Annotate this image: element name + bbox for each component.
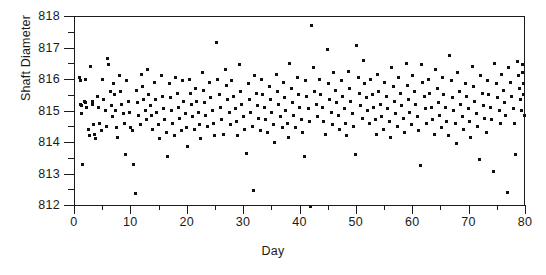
data-point	[101, 78, 104, 81]
data-point	[335, 101, 338, 104]
data-point	[85, 106, 88, 109]
y-tick-minor	[68, 95, 74, 96]
data-point	[131, 129, 134, 132]
data-point	[486, 79, 489, 82]
data-point	[154, 98, 157, 101]
x-tick	[187, 205, 188, 214]
data-point	[305, 95, 308, 98]
data-point	[290, 87, 293, 90]
data-point	[141, 85, 144, 88]
data-point	[393, 100, 396, 103]
data-point	[105, 125, 108, 128]
data-point	[123, 122, 126, 125]
y-tick	[64, 174, 74, 175]
data-point	[286, 122, 289, 125]
data-point	[416, 115, 419, 118]
data-point	[363, 82, 366, 85]
data-point	[88, 134, 91, 137]
data-point	[341, 95, 344, 98]
data-point	[427, 78, 430, 81]
data-point	[322, 120, 325, 123]
data-point	[437, 101, 440, 104]
x-tick-minor	[384, 205, 385, 210]
data-point	[385, 95, 388, 98]
x-tick	[356, 205, 357, 214]
data-point	[417, 129, 420, 132]
data-point	[279, 115, 282, 118]
data-point	[518, 87, 521, 90]
data-point	[310, 24, 313, 27]
data-point	[253, 74, 256, 77]
data-point	[158, 137, 161, 140]
data-point	[425, 122, 428, 125]
data-point	[247, 82, 250, 85]
data-point	[163, 118, 166, 121]
data-point	[191, 115, 194, 118]
data-point	[503, 101, 506, 104]
data-point	[266, 131, 269, 134]
data-point	[161, 95, 164, 98]
data-point	[114, 109, 117, 112]
data-point	[330, 111, 333, 114]
x-tick-minor	[328, 205, 329, 210]
x-tick	[469, 205, 470, 214]
data-point	[100, 129, 103, 132]
data-point	[382, 128, 385, 131]
data-point	[272, 123, 275, 126]
data-point	[144, 109, 147, 112]
data-point	[406, 84, 409, 87]
data-point	[362, 59, 365, 62]
y-tick-minor	[68, 63, 74, 64]
data-point	[201, 71, 204, 74]
data-point	[171, 122, 174, 125]
data-point	[202, 89, 205, 92]
x-tick-minor	[159, 205, 160, 210]
data-point	[304, 79, 307, 82]
data-point	[394, 112, 397, 115]
data-point	[225, 84, 228, 87]
x-tick-label: 60	[392, 216, 432, 229]
data-point	[230, 79, 233, 82]
scatter-plot-area	[74, 16, 525, 205]
y-tick	[64, 48, 74, 49]
data-point	[168, 82, 171, 85]
data-point	[256, 104, 259, 107]
x-tick-minor	[102, 205, 103, 210]
data-point	[465, 95, 468, 98]
data-point	[213, 134, 216, 137]
x-axis-line	[64, 205, 525, 206]
data-point	[301, 131, 304, 134]
y-tick-label: 817	[20, 42, 60, 54]
data-point	[252, 189, 255, 192]
data-point	[424, 107, 427, 110]
data-point	[194, 87, 197, 90]
data-point	[151, 128, 154, 131]
data-point	[489, 106, 492, 109]
data-point	[135, 89, 138, 92]
data-point	[519, 98, 522, 101]
x-tick-label: 50	[336, 216, 376, 229]
data-point	[248, 98, 251, 101]
data-point	[118, 74, 121, 77]
data-point	[506, 191, 509, 194]
data-point	[502, 89, 505, 92]
data-point	[513, 122, 516, 125]
data-point	[438, 114, 441, 117]
data-point	[319, 93, 322, 96]
data-point	[321, 106, 324, 109]
data-point	[84, 101, 87, 104]
data-point	[481, 92, 484, 95]
y-tick-label: 812	[20, 199, 60, 211]
data-point	[199, 137, 202, 140]
x-tick-minor	[440, 205, 441, 210]
data-point	[296, 76, 299, 79]
data-point	[169, 96, 172, 99]
y-tick-label: 813	[20, 168, 60, 180]
y-tick	[64, 16, 74, 17]
data-point	[300, 118, 303, 121]
data-point	[119, 90, 122, 93]
data-point	[334, 89, 337, 92]
data-point	[281, 126, 284, 129]
x-tick	[74, 205, 75, 214]
data-point	[447, 134, 450, 137]
